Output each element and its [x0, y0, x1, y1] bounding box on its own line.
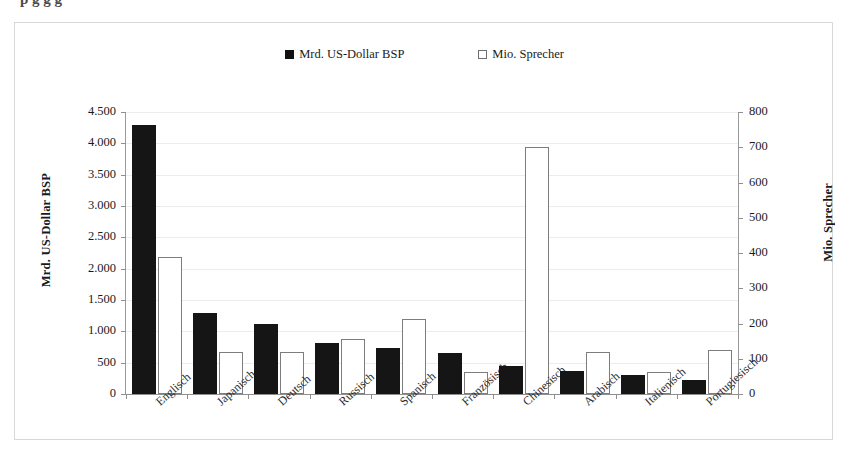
bar-mrd-us-dollar-bsp[interactable]	[682, 380, 706, 394]
y2-axis-tick	[738, 183, 743, 184]
y2-axis-tick	[738, 324, 743, 325]
y-axis-tick-label: 3.000	[88, 199, 116, 211]
x-axis-tick	[310, 394, 311, 399]
bar-group	[432, 112, 493, 394]
bar-group	[187, 112, 248, 394]
filled-square-icon	[285, 50, 294, 59]
bar-mrd-us-dollar-bsp[interactable]	[621, 375, 645, 394]
x-axis-tick	[371, 394, 372, 399]
y2-axis-tick-label: 600	[749, 176, 768, 188]
y2-axis-tick	[738, 147, 743, 148]
bar-mrd-us-dollar-bsp[interactable]	[560, 371, 584, 394]
y-axis-tick-label: 1.500	[88, 293, 116, 305]
x-axis-tick	[554, 394, 555, 399]
y-axis-tick-label: 1.000	[88, 324, 116, 336]
bar-group	[248, 112, 309, 394]
bar-mrd-us-dollar-bsp[interactable]	[254, 324, 278, 394]
legend-label-series1: Mrd. US-Dollar BSP	[299, 47, 404, 62]
bar-mrd-us-dollar-bsp[interactable]	[438, 353, 462, 394]
plot-area: 05001.0001.5002.0002.5003.0003.5004.0004…	[125, 112, 739, 394]
y2-axis-tick	[738, 112, 743, 113]
x-axis-tick	[616, 394, 617, 399]
y2-axis-tick-label: 0	[749, 387, 755, 399]
bar-mio-sprecher[interactable]	[525, 147, 549, 394]
legend-item-series2[interactable]: Mio. Sprecher	[478, 47, 564, 62]
x-axis-tick	[493, 394, 494, 399]
chart-page: p g g g Mrd. US-Dollar BSP Mio. Sprecher…	[0, 0, 851, 463]
legend-label-series2: Mio. Sprecher	[492, 47, 564, 62]
clipped-heading-text: p g g g	[20, 0, 62, 8]
y-axis-tick-label: 0	[110, 387, 116, 399]
bar-group	[493, 112, 554, 394]
y2-axis-tick-label: 500	[749, 211, 768, 223]
bar-mrd-us-dollar-bsp[interactable]	[376, 348, 400, 394]
x-axis-tick	[248, 394, 249, 399]
bar-group	[616, 112, 677, 394]
bar-group	[371, 112, 432, 394]
bar-mrd-us-dollar-bsp[interactable]	[499, 366, 523, 394]
bar-group	[126, 112, 187, 394]
x-axis-tick	[432, 394, 433, 399]
y-axis-tick-label: 500	[97, 356, 116, 368]
y-axis-tick-label: 2.500	[88, 230, 116, 242]
bar-mio-sprecher[interactable]	[158, 257, 182, 394]
bar-mrd-us-dollar-bsp[interactable]	[193, 313, 217, 394]
y2-axis-tick-label: 400	[749, 246, 768, 258]
y2-axis-tick	[738, 288, 743, 289]
bar-mrd-us-dollar-bsp[interactable]	[132, 125, 156, 394]
x-axis-tick	[126, 394, 127, 399]
hollow-square-icon	[478, 50, 487, 59]
x-axis-tick	[677, 394, 678, 399]
y2-axis-tick-label: 200	[749, 317, 768, 329]
y-axis-tick-label: 4.500	[88, 105, 116, 117]
bar-group	[677, 112, 738, 394]
x-axis-tick	[738, 394, 739, 399]
y-axis-tick-label: 3.500	[88, 168, 116, 180]
legend-item-series1[interactable]: Mrd. US-Dollar BSP	[285, 47, 404, 62]
y2-axis-tick	[738, 253, 743, 254]
y-axis-title: Mrd. US-Dollar BSP	[39, 173, 54, 287]
y-axis-tick-label: 4.000	[88, 136, 116, 148]
y2-axis-tick-label: 800	[749, 105, 768, 117]
y2-axis-tick	[738, 218, 743, 219]
clipped-heading-strip: p g g g	[0, 0, 851, 14]
y2-axis-tick-label: 700	[749, 140, 768, 152]
y-axis-tick-label: 2.000	[88, 262, 116, 274]
bar-mrd-us-dollar-bsp[interactable]	[315, 343, 339, 394]
y2-axis-tick	[738, 359, 743, 360]
y2-axis-tick-label: 300	[749, 281, 768, 293]
chart-legend: Mrd. US-Dollar BSP Mio. Sprecher	[15, 47, 834, 62]
chart-frame: Mrd. US-Dollar BSP Mio. Sprecher Mrd. US…	[14, 22, 833, 440]
bar-group	[554, 112, 615, 394]
y2-axis-title: Mio. Sprecher	[821, 183, 836, 262]
x-axis-tick	[187, 394, 188, 399]
bar-group	[310, 112, 371, 394]
